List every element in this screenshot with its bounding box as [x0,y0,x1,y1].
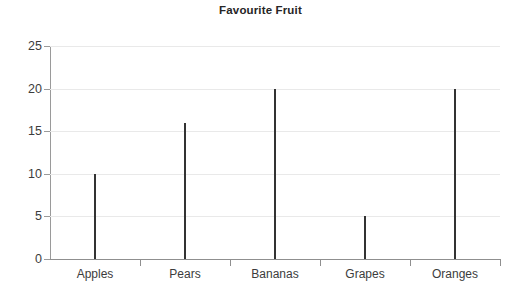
x-axis-line [50,259,501,260]
gridline [50,46,500,47]
y-axis-tick-label: 5 [8,210,42,223]
y-axis-tick-mark [44,131,50,132]
bar [184,123,187,259]
y-axis-tick-mark [44,259,50,260]
y-axis-tick-label: 0 [8,253,42,266]
x-axis-category-label: Grapes [320,265,410,284]
y-axis-tick-mark [44,46,50,47]
x-axis-end-tick [500,259,501,266]
y-axis-tick-label: 15 [8,125,42,138]
bar [454,89,457,259]
y-axis-tick-mark [44,216,50,217]
bar [364,216,367,259]
bar [94,174,97,259]
x-axis-category-label: Bananas [230,265,320,284]
y-axis-tick-mark [44,174,50,175]
chart-title: Favourite Fruit [0,4,521,16]
x-axis-category-label: Oranges [410,265,500,284]
x-axis-category-label: Apples [50,265,140,284]
y-axis-tick-label: 25 [8,40,42,53]
x-axis-category-label: Pears [140,265,230,284]
y-axis-tick-label: 10 [8,168,42,181]
y-axis-tick-mark [44,89,50,90]
bar [274,89,277,259]
y-axis-tick-label: 20 [8,83,42,96]
chart-container: r me Favourite Fruit 0510152025ApplesPea… [0,0,521,287]
